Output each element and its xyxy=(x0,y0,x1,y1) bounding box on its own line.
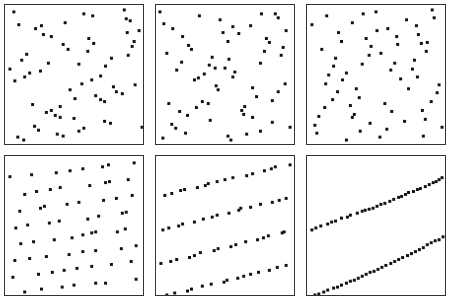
data-point xyxy=(171,27,174,30)
data-point xyxy=(424,185,427,188)
data-point xyxy=(326,289,329,292)
data-point xyxy=(183,188,186,191)
data-point xyxy=(193,221,196,224)
data-point xyxy=(68,253,71,256)
data-point xyxy=(59,105,62,108)
data-point xyxy=(130,260,133,263)
data-point xyxy=(229,139,232,142)
data-point xyxy=(285,197,288,200)
data-point xyxy=(112,85,115,88)
data-point xyxy=(396,43,399,46)
data-point xyxy=(345,72,348,75)
data-point xyxy=(315,132,318,135)
data-point xyxy=(14,226,17,229)
data-point xyxy=(71,236,74,239)
data-point xyxy=(135,244,138,247)
scatter-panel-6 xyxy=(306,155,446,296)
data-point xyxy=(224,67,227,70)
data-point xyxy=(17,23,20,26)
data-point xyxy=(88,184,91,187)
data-point xyxy=(401,256,404,259)
data-point xyxy=(282,46,285,49)
data-point xyxy=(365,37,368,40)
data-point xyxy=(310,228,313,231)
data-point xyxy=(115,197,118,200)
data-point xyxy=(97,215,100,218)
data-point xyxy=(123,8,126,11)
data-point xyxy=(430,241,433,244)
data-point xyxy=(353,113,356,116)
data-point xyxy=(314,226,317,229)
data-point xyxy=(424,118,427,121)
data-point xyxy=(433,16,436,19)
data-point xyxy=(81,233,84,236)
data-point xyxy=(94,94,97,97)
data-point xyxy=(127,54,130,57)
data-point xyxy=(190,288,193,291)
data-point xyxy=(209,119,212,122)
data-point xyxy=(268,269,271,272)
data-point xyxy=(278,199,281,202)
data-point xyxy=(217,88,220,91)
data-point xyxy=(234,243,237,246)
data-point xyxy=(340,284,343,287)
data-point xyxy=(359,130,362,133)
data-point xyxy=(426,243,429,246)
data-point xyxy=(28,257,31,260)
data-point xyxy=(413,59,416,62)
data-point xyxy=(108,180,111,183)
data-point xyxy=(32,240,35,243)
data-point xyxy=(59,186,62,189)
data-point xyxy=(285,264,288,267)
data-point xyxy=(358,96,361,99)
data-point xyxy=(165,52,168,55)
data-point xyxy=(242,275,245,278)
data-point xyxy=(351,21,354,24)
data-point xyxy=(226,40,229,43)
data-point xyxy=(277,90,280,93)
data-point xyxy=(25,53,28,56)
data-point xyxy=(126,31,129,34)
data-point xyxy=(107,163,110,166)
data-point xyxy=(104,282,107,285)
data-point xyxy=(121,92,124,95)
data-point xyxy=(173,292,176,295)
data-point xyxy=(116,230,119,233)
data-point xyxy=(240,109,243,112)
data-point xyxy=(274,165,277,168)
data-point xyxy=(249,24,252,27)
data-point xyxy=(161,137,164,140)
data-point xyxy=(190,48,193,51)
data-point xyxy=(16,136,19,139)
data-point xyxy=(99,98,102,101)
data-point xyxy=(386,27,389,30)
data-point xyxy=(330,221,333,224)
data-point xyxy=(320,48,323,51)
data-point xyxy=(370,45,373,48)
data-point xyxy=(198,14,201,17)
data-point xyxy=(376,29,379,32)
data-point xyxy=(389,262,392,265)
data-point xyxy=(340,217,343,220)
data-point xyxy=(400,195,403,198)
data-point xyxy=(141,126,143,129)
data-point xyxy=(289,163,292,166)
data-point xyxy=(236,277,239,280)
data-point xyxy=(23,193,26,196)
data-point xyxy=(77,63,80,66)
data-point xyxy=(170,123,173,126)
data-point xyxy=(317,293,320,295)
data-point xyxy=(245,174,248,177)
data-point xyxy=(63,269,66,272)
data-point xyxy=(373,270,376,273)
data-point xyxy=(231,176,234,179)
data-point xyxy=(417,33,420,36)
data-point xyxy=(438,178,441,181)
data-point xyxy=(193,78,196,81)
data-point xyxy=(167,102,170,105)
data-point xyxy=(340,40,343,43)
data-point xyxy=(271,121,274,124)
scatter-plot-area xyxy=(156,156,294,295)
data-point xyxy=(243,105,246,108)
data-point xyxy=(345,139,348,142)
